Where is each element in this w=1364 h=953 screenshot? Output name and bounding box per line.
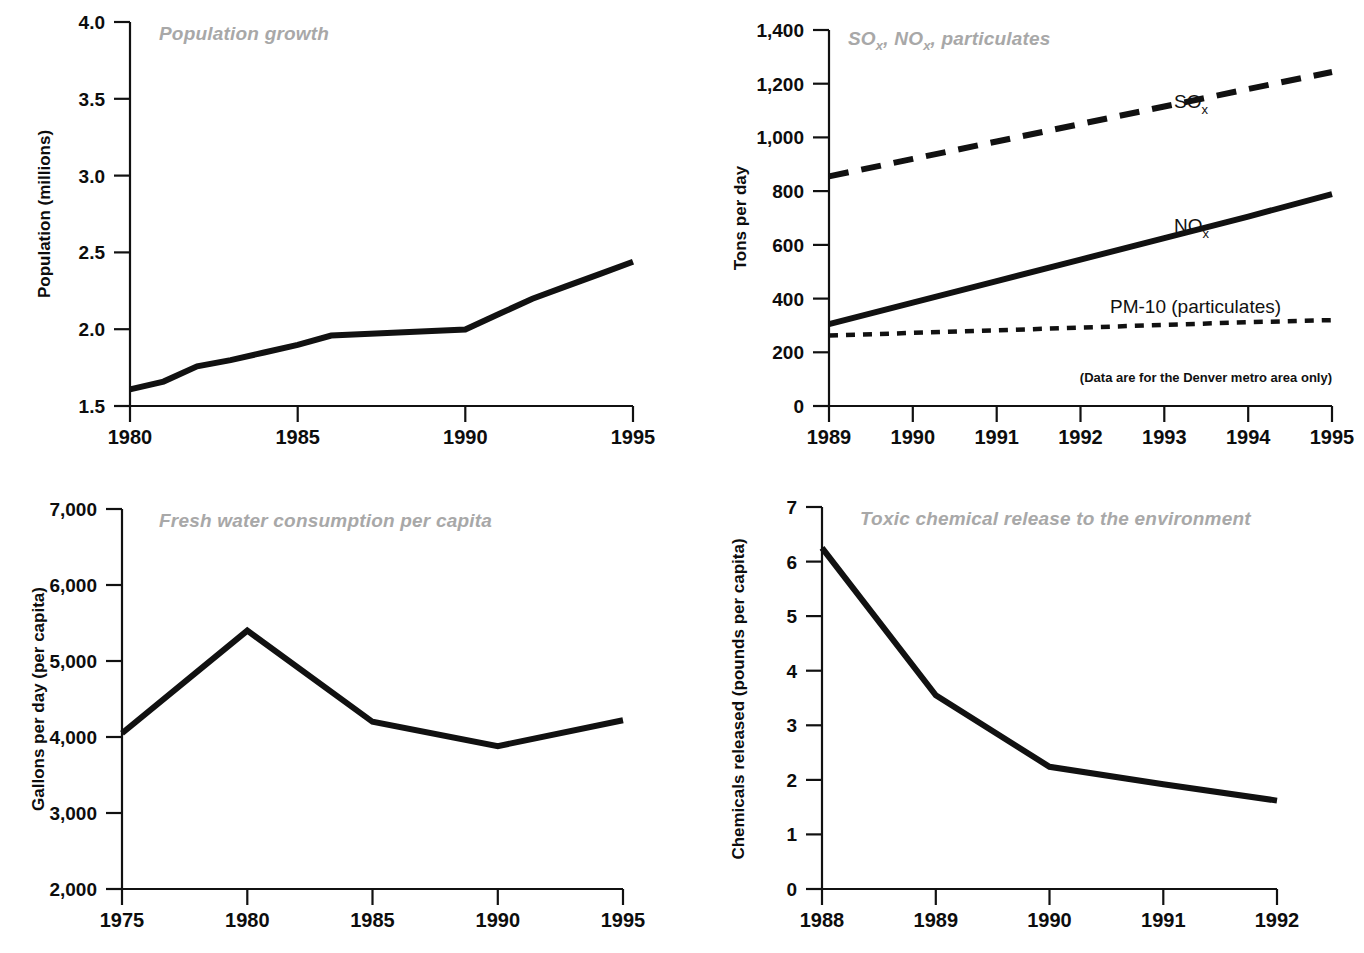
y-tick-marks — [106, 509, 122, 889]
x-tick-label: 1989 — [914, 909, 959, 931]
chart-panel-population-growth: 4.0 3.5 3.0 2.5 2.0 1.5 1980 1985 1990 1… — [0, 0, 682, 476]
chart-panel-toxic-chemical-release: 7 6 5 4 3 2 1 0 1988 1989 1990 1991 1992… — [682, 477, 1364, 953]
y-tick-marks — [114, 22, 130, 406]
y-tick-label: 5,000 — [49, 651, 97, 672]
y-tick-label: 3 — [786, 715, 797, 736]
y-axis-title: Population (millions) — [35, 130, 54, 298]
x-tick-label: 1980 — [225, 909, 270, 931]
chart-title-part: , NO — [882, 28, 923, 49]
chart-title-part: SO — [848, 28, 876, 49]
y-tick-label: 4,000 — [49, 727, 97, 748]
y-tick-label: 1,000 — [756, 127, 804, 148]
y-tick-label: 200 — [772, 342, 804, 363]
x-tick-label: 1995 — [611, 426, 656, 448]
x-tick-marks — [822, 889, 1277, 905]
x-tick-label: 1993 — [1142, 426, 1187, 448]
figure-page: 4.0 3.5 3.0 2.5 2.0 1.5 1980 1985 1990 1… — [0, 0, 1364, 953]
y-tick-label: 600 — [772, 235, 804, 256]
x-tick-label: 1989 — [807, 426, 852, 448]
x-tick-label: 1990 — [1027, 909, 1072, 931]
x-tick-label: 1995 — [1310, 426, 1355, 448]
y-tick-label: 7 — [786, 497, 797, 518]
y-tick-label: 7,000 — [49, 499, 97, 520]
x-tick-label: 1975 — [100, 909, 145, 931]
y-tick-label: 3,000 — [49, 803, 97, 824]
chart-title: SOx, NOx, particulates — [848, 28, 1051, 53]
y-tick-label: 2.5 — [79, 242, 106, 263]
x-tick-label: 1995 — [601, 909, 646, 931]
x-tick-label: 1991 — [1141, 909, 1186, 931]
data-series-pm10 — [829, 320, 1332, 336]
x-tick-label: 1990 — [476, 909, 521, 931]
y-tick-label: 1 — [786, 824, 797, 845]
data-series-sox — [829, 72, 1332, 176]
y-tick-label: 5 — [786, 606, 797, 627]
x-tick-label: 1990 — [891, 426, 936, 448]
y-tick-label: 3.0 — [79, 166, 105, 187]
data-series-line-main — [130, 262, 633, 390]
y-tick-marks — [813, 30, 829, 406]
y-tick-label: 2.0 — [79, 319, 105, 340]
chart-title-part: , particulates — [930, 28, 1051, 49]
y-tick-label: 1.5 — [79, 396, 106, 417]
x-tick-label: 1994 — [1226, 426, 1271, 448]
y-tick-label: 2 — [786, 770, 797, 791]
x-tick-label: 1990 — [443, 426, 488, 448]
x-tick-marks — [829, 406, 1332, 422]
x-tick-label: 1992 — [1058, 426, 1103, 448]
y-tick-label: 800 — [772, 181, 804, 202]
series-label-sox: SOx — [1174, 91, 1208, 117]
x-tick-label: 1991 — [974, 426, 1019, 448]
y-tick-label: 1,200 — [756, 74, 804, 95]
y-tick-label: 4.0 — [79, 12, 105, 33]
x-tick-label: 1980 — [108, 426, 153, 448]
x-tick-marks — [122, 889, 623, 905]
y-tick-label: 4 — [786, 661, 797, 682]
chart-title: Population growth — [159, 23, 329, 44]
y-axis-title: Tons per day — [731, 165, 750, 270]
y-axis-title: Gallons per day (per capita) — [29, 587, 48, 811]
data-source-note: (Data are for the Denver metro area only… — [1080, 370, 1332, 385]
chart-title: Toxic chemical release to the environmen… — [860, 508, 1251, 529]
x-tick-label: 1985 — [350, 909, 395, 931]
series-label-pm10: PM-10 (particulates) — [1110, 296, 1281, 317]
y-axis-title: Chemicals released (pounds per capita) — [729, 538, 748, 859]
y-tick-label: 6 — [786, 552, 797, 573]
y-tick-label: 0 — [793, 396, 804, 417]
chart-title: Fresh water consumption per capita — [159, 510, 492, 531]
y-tick-label: 1,400 — [756, 20, 804, 41]
chart-panel-fresh-water-consumption: 7,000 6,000 5,000 4,000 3,000 2,000 1975… — [0, 477, 682, 953]
y-tick-label: 3.5 — [79, 89, 106, 110]
x-tick-marks — [130, 406, 633, 422]
y-tick-marks — [806, 507, 822, 889]
y-tick-label: 6,000 — [49, 575, 97, 596]
data-series-line — [122, 631, 623, 747]
chart-panel-sox-nox-particulates: 1,400 1,200 1,000 800 600 400 200 0 1989… — [682, 0, 1364, 476]
data-series-line — [822, 548, 1277, 801]
x-tick-label: 1988 — [800, 909, 845, 931]
y-tick-label: 400 — [772, 289, 804, 310]
x-tick-label: 1992 — [1255, 909, 1300, 931]
y-tick-label: 0 — [786, 879, 797, 900]
y-tick-label: 2,000 — [49, 879, 97, 900]
x-tick-label: 1985 — [275, 426, 320, 448]
